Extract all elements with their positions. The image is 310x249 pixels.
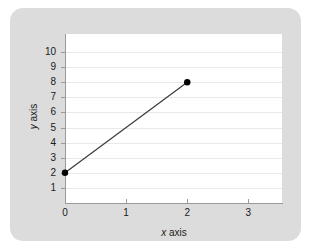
chart-panel: 12345678910 0123 x axis y axis	[10, 8, 301, 241]
data-point-marker	[184, 79, 190, 85]
chart-figure: 12345678910 0123 x axis y axis	[0, 0, 310, 249]
line-series	[62, 79, 191, 176]
series-line	[65, 82, 187, 173]
data-point-marker	[62, 170, 68, 176]
data-series-layer	[10, 8, 310, 249]
